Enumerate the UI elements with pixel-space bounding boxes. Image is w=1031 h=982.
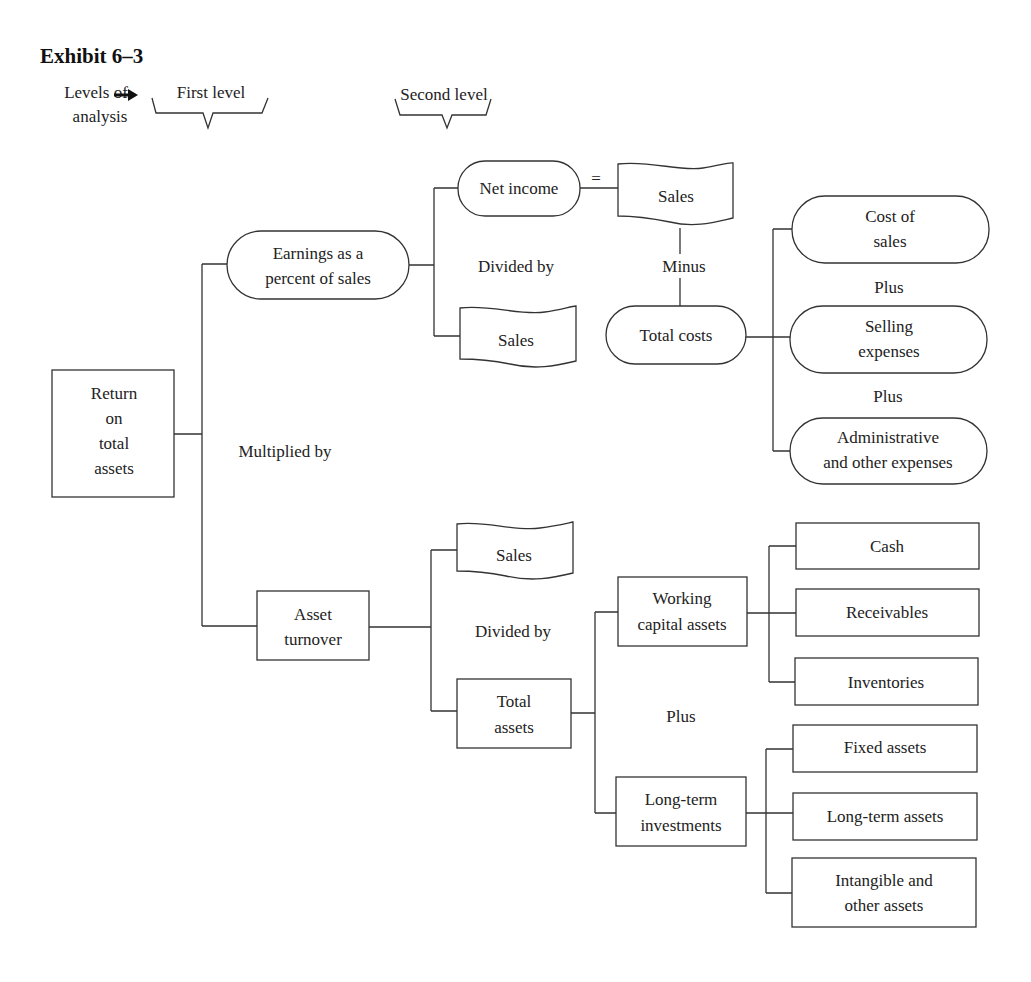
working-capital-connector	[747, 546, 796, 682]
equals-sign: =	[591, 169, 601, 188]
asset-turnover-line1: Asset	[294, 605, 332, 624]
cost-line1: Administrative	[837, 428, 939, 447]
long-term-line2: investments	[640, 816, 721, 835]
total-assets-line2: assets	[494, 718, 534, 737]
root-line: total	[99, 434, 129, 453]
cost-line1: Cost of	[865, 207, 915, 226]
costs-connector	[746, 229, 792, 451]
sales-label: Sales	[658, 187, 694, 206]
turnover-connector	[369, 550, 457, 711]
root-line: Return	[91, 384, 138, 403]
levels-label-line1: Levels of	[64, 83, 128, 102]
multiplied-by-label: Multiplied by	[238, 442, 332, 461]
inventories-label: Inventories	[848, 673, 924, 692]
long-term-assets-label: Long-term assets	[827, 807, 944, 826]
long-term-investments-box	[616, 777, 746, 846]
first-level-brace-icon	[152, 98, 268, 128]
cost-line2: expenses	[858, 342, 919, 361]
cost-line1: Selling	[865, 317, 914, 336]
plus-label: Plus	[666, 707, 695, 726]
working-capital-assets-box	[618, 577, 747, 646]
receivables-label: Receivables	[846, 603, 928, 622]
total-assets-connector	[571, 612, 618, 813]
plus-label: Plus	[873, 387, 902, 406]
net-income-label: Net income	[480, 179, 559, 198]
root-line: assets	[94, 459, 134, 478]
total-costs-label: Total costs	[640, 326, 713, 345]
second-level-label: Second level	[400, 85, 488, 104]
cost-line2: and other expenses	[823, 453, 952, 472]
earnings-connector	[409, 188, 460, 336]
intangible-line2: other assets	[845, 896, 924, 915]
asset-turnover-line2: turnover	[284, 630, 342, 649]
asset-turnover-box	[257, 591, 369, 660]
root-line: on	[106, 409, 124, 428]
intangible-assets-box	[792, 858, 976, 927]
divided-by-label: Divided by	[478, 257, 555, 276]
long-term-connector	[746, 749, 793, 893]
intangible-line1: Intangible and	[835, 871, 933, 890]
long-term-line1: Long-term	[645, 790, 718, 809]
cost-line2: sales	[873, 232, 906, 251]
cash-label: Cash	[870, 537, 905, 556]
sales-denominator-label: Sales	[498, 331, 534, 350]
minus-label: Minus	[662, 257, 705, 276]
earnings-line1: Earnings as a	[273, 244, 364, 263]
first-level-label: First level	[177, 83, 246, 102]
plus-label: Plus	[874, 278, 903, 297]
total-assets-box	[457, 679, 571, 748]
working-capital-line1: Working	[652, 589, 712, 608]
levels-label-line2: analysis	[73, 107, 128, 126]
working-capital-line2: capital assets	[637, 615, 726, 634]
sales-turnover-label: Sales	[496, 546, 532, 565]
divided-by-label: Divided by	[475, 622, 552, 641]
earnings-line2: percent of sales	[265, 269, 371, 288]
fixed-assets-label: Fixed assets	[844, 738, 927, 757]
earnings-percent-of-sales-pill	[227, 231, 409, 299]
total-assets-line1: Total	[497, 692, 532, 711]
roa-decomposition-diagram: Exhibit 6–3 Levels of analysis First lev…	[0, 0, 1031, 982]
exhibit-title: Exhibit 6–3	[40, 44, 143, 68]
